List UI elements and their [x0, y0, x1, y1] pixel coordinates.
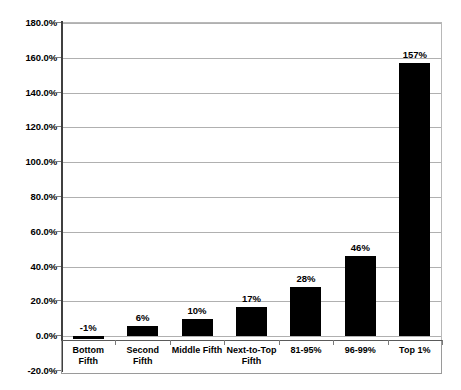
gridline — [61, 232, 441, 233]
y-axis-tick-label: 100.0% — [1, 156, 57, 167]
gridline — [61, 58, 441, 59]
category-axis-label: Top 1% — [389, 345, 441, 356]
category-axis-label: Next-to-Top Fifth — [225, 345, 277, 367]
bar-chart: 180.0%160.0%140.0%120.0%100.0%80.0%60.0%… — [0, 0, 461, 390]
bar-value-label: 46% — [351, 242, 370, 253]
bar-value-label: 28% — [296, 273, 315, 284]
bar — [290, 287, 321, 336]
bar-value-label: 6% — [136, 312, 150, 323]
gridline — [61, 23, 441, 24]
category-axis-label: 81-95% — [280, 345, 332, 356]
gridline — [61, 93, 441, 94]
bar — [73, 336, 104, 339]
gridline — [61, 197, 441, 198]
y-axis-tick-label: 0.0% — [1, 330, 57, 341]
y-axis-tick-label: 180.0% — [1, 17, 57, 28]
bar — [182, 319, 213, 336]
y-axis-tick-label: -20.0% — [1, 365, 57, 376]
bar — [345, 256, 376, 336]
y-axis-tick-label: 40.0% — [1, 260, 57, 271]
category-axis-label: Second Fifth — [116, 345, 168, 367]
y-axis-tick-label: 80.0% — [1, 191, 57, 202]
bar-value-label: -1% — [80, 322, 97, 333]
y-axis-tick-label: 160.0% — [1, 51, 57, 62]
gridline — [61, 336, 441, 337]
bar — [236, 307, 267, 337]
bar — [399, 63, 430, 336]
gridline — [61, 162, 441, 163]
bar-value-label: 157% — [403, 49, 427, 60]
category-axis-label: Bottom Fifth — [62, 345, 114, 367]
category-axis-label: Middle Fifth — [171, 345, 223, 356]
bar-value-label: 17% — [242, 293, 261, 304]
gridline — [61, 267, 441, 268]
y-axis-tick-label: 60.0% — [1, 225, 57, 236]
y-axis-line — [61, 21, 63, 372]
gridline — [61, 127, 441, 128]
y-axis-tick-label: 120.0% — [1, 121, 57, 132]
category-axis-label: 96-99% — [334, 345, 386, 356]
y-axis-tick-label: 140.0% — [1, 86, 57, 97]
bar — [127, 326, 158, 336]
y-axis-tick-label: 20.0% — [1, 295, 57, 306]
category-tick-mark — [442, 340, 443, 345]
bar-value-label: 10% — [188, 305, 207, 316]
